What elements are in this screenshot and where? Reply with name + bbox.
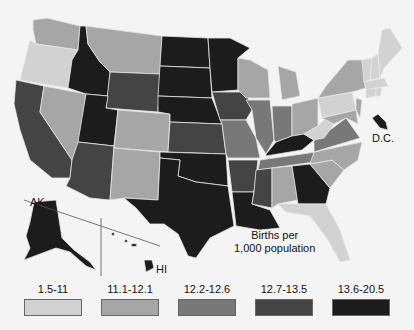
state-nd	[160, 36, 210, 68]
legend-label: 13.6-20.5	[331, 282, 391, 296]
state-co	[114, 110, 170, 152]
label-hi: HI	[156, 263, 167, 275]
legend-label: 1.5-11	[23, 282, 83, 296]
legend-item-4: 12.7-13.5	[254, 282, 314, 316]
state-hi	[112, 233, 155, 273]
state-dc	[372, 114, 388, 130]
state-mi	[278, 66, 300, 100]
note-line-2: 1,000 population	[234, 242, 315, 255]
state-me	[378, 28, 402, 78]
legend-swatch	[24, 299, 82, 316]
legend-item-3: 12.2-12.6	[177, 282, 237, 316]
legend-swatch	[178, 299, 236, 316]
state-ri	[376, 88, 382, 96]
label-dc: D.C.	[372, 132, 394, 144]
state-in	[272, 106, 292, 142]
state-wi	[238, 58, 270, 98]
legend-item-2: 11.1-12.1	[100, 282, 160, 316]
map-note: Births per 1,000 population	[234, 229, 315, 255]
state-wy	[106, 72, 160, 112]
state-ny	[318, 60, 366, 98]
legend-swatch	[255, 299, 313, 316]
us-births-map	[0, 0, 414, 330]
legend-item-5: 13.6-20.5	[331, 282, 391, 316]
legend-label: 11.1-12.1	[100, 282, 160, 296]
note-line-1: Births per	[234, 229, 315, 242]
legend-swatch	[332, 299, 390, 316]
legend-swatch	[101, 299, 159, 316]
state-ar	[228, 160, 258, 192]
legend-label: 12.2-12.6	[177, 282, 237, 296]
legend-label: 12.7-13.5	[254, 282, 314, 296]
label-ak: AK	[30, 196, 45, 208]
state-ct	[366, 88, 376, 98]
state-ak	[24, 200, 96, 270]
state-nm	[110, 148, 160, 200]
state-ks	[168, 122, 226, 154]
state-sd	[158, 66, 212, 98]
legend-item-1: 1.5-11	[23, 282, 83, 316]
